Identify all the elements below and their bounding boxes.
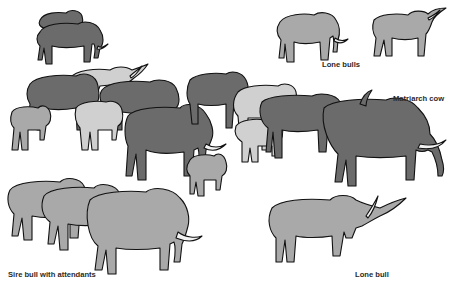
elephant-lone-bull-1 (277, 13, 348, 62)
elephant-groups-illustration: Lone bulls Matriarch cow Sire bull with … (0, 0, 461, 282)
elephant-herd-center (11, 64, 446, 196)
label-sire-bull-with-attendants: Sire bull with attendants (8, 270, 96, 279)
label-lone-bull: Lone bull (355, 270, 389, 279)
elephant-sire-bull-group (8, 179, 202, 274)
elephant-lone-bull-2 (373, 8, 446, 56)
elephant-scene (0, 0, 461, 282)
elephant-pair-top-left (37, 11, 108, 64)
label-lone-bulls: Lone bulls (322, 60, 360, 69)
label-matriarch-cow: Matriarch cow (393, 94, 444, 103)
elephant-lone-bull-bottom (269, 196, 406, 263)
